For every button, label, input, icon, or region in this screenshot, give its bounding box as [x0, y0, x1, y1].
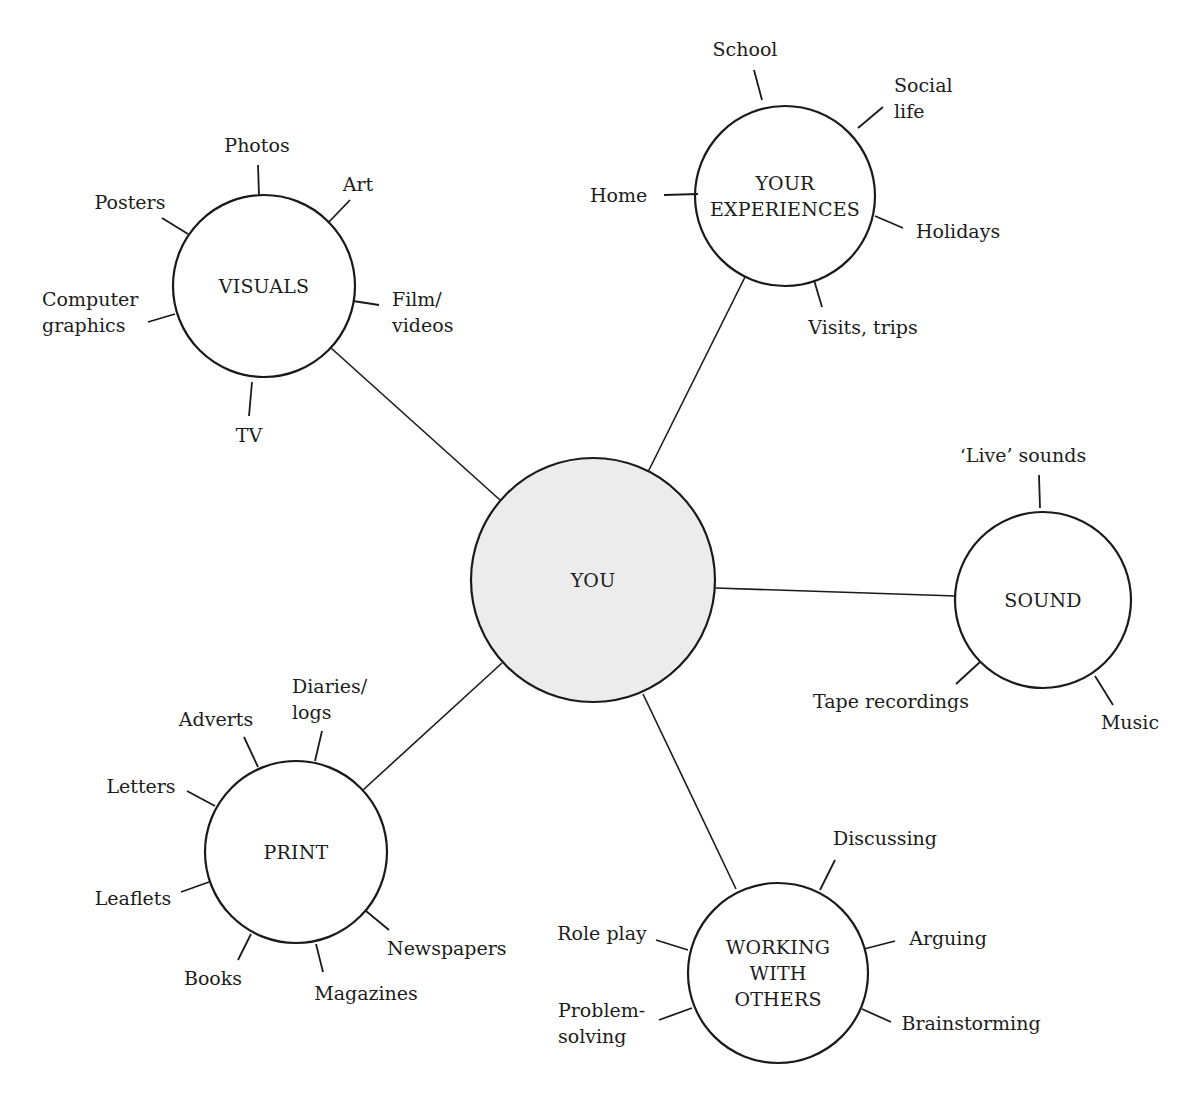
leaf-label-line: Visits, trips: [807, 316, 917, 338]
hub-label: YOU: [570, 569, 616, 591]
leaf-label: Adverts: [178, 708, 253, 730]
leaf-label-line: Arguing: [908, 927, 987, 949]
leaf-label-line: life: [894, 100, 924, 122]
leaf-label: School: [713, 38, 778, 60]
leaf-tv: TV: [236, 382, 263, 446]
leaf-role-play: Role play: [557, 922, 688, 950]
node-sound: SOUND‘Live’ soundsTape recordingsMusic: [813, 444, 1159, 733]
leaf-label-line: Home: [590, 184, 647, 206]
mind-map-canvas: YOU VISUALSPhotosArtPostersComputergraph…: [0, 0, 1204, 1100]
leaf-connector: [249, 382, 252, 416]
leaf-posters: Posters: [95, 191, 188, 234]
leaf-label: Sociallife: [894, 74, 953, 122]
leaf-label-line: Tape recordings: [813, 690, 969, 712]
leaf-connector: [148, 314, 175, 322]
leaf-label-line: graphics: [42, 314, 125, 336]
leaf-label-line: Brainstorming: [901, 1012, 1040, 1034]
leaf-label: Film/videos: [391, 288, 453, 336]
leaf-connector: [820, 860, 835, 890]
link-you-to-working-with-others: [643, 694, 736, 889]
leaf-label-line: Computer: [42, 288, 139, 310]
leaf-leaflets: Leaflets: [95, 882, 209, 909]
leaf-label-line: Film/: [392, 288, 442, 310]
leaf-label: Home: [590, 184, 647, 206]
leaf-diaries-logs: Diaries/logs: [292, 675, 368, 761]
leaf-newspapers: Newspapers: [366, 911, 507, 959]
leaf-label-line: Newspapers: [387, 937, 507, 959]
leaf-label: Tape recordings: [813, 690, 969, 712]
leaf-label-line: Adverts: [178, 708, 253, 730]
leaf-discussing: Discussing: [820, 827, 937, 890]
leaf-label: Magazines: [314, 982, 418, 1004]
leaf-label-line: solving: [558, 1025, 626, 1047]
leaf-label-line: Diaries/: [292, 675, 368, 697]
leaf-connector: [754, 70, 762, 100]
visuals-label-line: VISUALS: [218, 275, 309, 297]
leaf-label-line: Posters: [95, 191, 166, 213]
leaf-connector: [238, 934, 251, 960]
leaf-label: Posters: [95, 191, 166, 213]
leaf-connector: [181, 882, 209, 892]
leaf-label-line: Discussing: [833, 827, 937, 849]
leaf-connector: [1039, 475, 1040, 508]
leaf-label-line: Magazines: [314, 982, 418, 1004]
leaf-connector: [664, 194, 698, 195]
leaf-connector: [862, 1009, 891, 1022]
your-experiences-label-line: YOUR: [754, 172, 815, 194]
your-experiences-circle: [695, 106, 875, 286]
node-visuals: VISUALSPhotosArtPostersComputergraphicsF…: [42, 134, 453, 446]
leaf-label-line: Role play: [557, 922, 647, 944]
node-working-with-others: WORKINGWITHOTHERSDiscussingRole playArgu…: [557, 827, 1040, 1063]
leaf-connector: [656, 940, 688, 950]
leaf-label: Books: [184, 967, 242, 989]
leaf-music: Music: [1095, 676, 1159, 733]
leaf-label: Newspapers: [387, 937, 507, 959]
leaf-connector: [315, 731, 322, 761]
leaf-books: Books: [184, 934, 251, 989]
visuals-label: VISUALS: [218, 275, 309, 297]
leaf-label: Photos: [224, 134, 289, 156]
leaf-adverts: Adverts: [178, 708, 258, 767]
leaf-label-line: Music: [1101, 711, 1159, 733]
leaf-label: Role play: [557, 922, 647, 944]
leaf-connector: [328, 200, 350, 223]
leaf-letters: Letters: [106, 775, 215, 806]
print-label-line: PRINT: [264, 841, 329, 863]
leaf-visits-trips: Visits, trips: [807, 280, 917, 338]
leaf-connector: [659, 1008, 692, 1020]
leaf-connector: [316, 944, 323, 972]
leaf-connector: [244, 737, 258, 767]
leaf-arguing: Arguing: [864, 927, 987, 949]
leaf-label: Arguing: [908, 927, 987, 949]
working-with-others-label-line: OTHERS: [734, 988, 821, 1010]
leaf-label: Problem-solving: [558, 999, 645, 1047]
node-your-experiences: YOUREXPERIENCESSchoolSociallifeHomeHolid…: [590, 38, 1000, 338]
leaf-label-line: TV: [236, 424, 263, 446]
leaf-connector: [875, 216, 903, 228]
sound-label-line: SOUND: [1004, 589, 1081, 611]
leaf-label-line: videos: [391, 314, 453, 336]
leaf-label: Brainstorming: [901, 1012, 1040, 1034]
your-experiences-label-line: EXPERIENCES: [710, 198, 860, 220]
leaf-label: Holidays: [916, 220, 1000, 242]
link-you-to-print: [363, 663, 502, 790]
leaf-label-line: School: [713, 38, 778, 60]
leaf-label-line: Leaflets: [95, 887, 172, 909]
leaf-label: Computergraphics: [42, 288, 139, 336]
leaf-connector: [187, 791, 215, 806]
leaf-holidays: Holidays: [875, 216, 1000, 242]
leaf-label-line: logs: [292, 701, 331, 723]
leaf-label-line: ‘Live’ sounds: [960, 444, 1086, 466]
print-label: PRINT: [264, 841, 329, 863]
leaf-label: Music: [1101, 711, 1159, 733]
leaf-label-line: Problem-: [558, 999, 645, 1021]
leaf-label: TV: [236, 424, 263, 446]
leaf-connector: [956, 662, 980, 684]
leaf-label: Discussing: [833, 827, 937, 849]
leaf-connector: [258, 165, 259, 196]
leaf-label: ‘Live’ sounds: [960, 444, 1086, 466]
link-you-to-your-experiences: [646, 273, 747, 476]
hub-node: YOU: [471, 458, 715, 702]
link-you-to-sound: [715, 588, 956, 596]
leaf-live-sounds: ‘Live’ sounds: [960, 444, 1086, 508]
